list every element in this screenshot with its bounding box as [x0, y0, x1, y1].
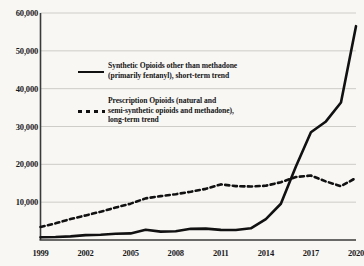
y-tick-label: 10,000: [4, 197, 38, 207]
chart-plot-area: [0, 0, 364, 266]
dashed-line-swatch: [78, 110, 105, 113]
x-tick-label: 2014: [258, 248, 274, 258]
solid-line-swatch: [78, 71, 104, 74]
x-tick-label: 2011: [213, 248, 229, 258]
x-tick-label: 2017: [303, 248, 319, 258]
legend-entry-synthetic-opioids-line1: Synthetic Opioids other than methadone: [108, 61, 237, 71]
legend-entry-prescription-opioids-line1: Prescription Opioids (natural and: [108, 96, 234, 106]
opioid-overdose-deaths-line-chart: 10,00020,00030,00040,00050,00060,000 199…: [0, 0, 364, 266]
legend-entry-prescription-opioids: Prescription Opioids (natural and semi-s…: [108, 96, 234, 125]
y-tick-label: 40,000: [4, 84, 38, 94]
x-tick-label: 2002: [77, 248, 93, 258]
legend-entry-synthetic-opioids-line2: (primarily fentanyl), short-term trend: [108, 71, 237, 81]
x-tick-label: 2008: [168, 248, 184, 258]
x-tick-label: 1999: [32, 248, 48, 258]
y-tick-label: 30,000: [4, 122, 38, 132]
x-tick-label: 2005: [123, 248, 139, 258]
y-tick-label: 50,000: [4, 46, 38, 56]
legend-entry-synthetic-opioids: Synthetic Opioids other than methadone (…: [108, 61, 237, 80]
data-series: [41, 26, 357, 237]
legend-entry-prescription-opioids-line3: long-term trend: [108, 115, 234, 125]
y-tick-label: 20,000: [4, 159, 38, 169]
legend-entry-prescription-opioids-line2: semi-synthetic opioids and methadone),: [108, 106, 234, 116]
y-tick-label: 60,000: [4, 8, 38, 18]
y-axis-tick-labels: 10,00020,00030,00040,00050,00060,000: [0, 0, 38, 266]
x-axis-tick-labels: 19992002200520082011201420172020: [0, 246, 364, 266]
x-tick-label: 2020: [348, 248, 364, 258]
